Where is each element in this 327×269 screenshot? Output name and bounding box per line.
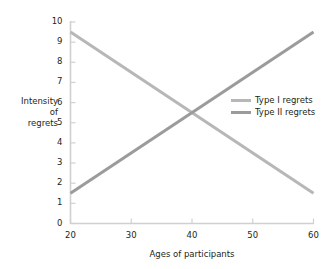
y-tick-label: 7: [45, 76, 63, 86]
x-tick-label: 40: [180, 230, 204, 240]
legend-label: Type II regrets: [255, 107, 315, 118]
legend-swatch-line-icon: [231, 111, 251, 114]
x-tick-label: 60: [302, 230, 326, 240]
y-axis-title: Intensityofregrets: [6, 96, 58, 129]
legend-item: Type I regrets: [231, 95, 326, 106]
y-tick-label: 9: [45, 36, 63, 46]
legend-swatch-line-icon: [231, 99, 251, 102]
x-tick-label: 30: [119, 230, 143, 240]
chart-legend: Type I regretsType II regrets: [231, 95, 326, 119]
y-tick-label: 0: [45, 218, 63, 228]
y-tick-label: 8: [45, 56, 63, 66]
y-axis-title-line: Intensity: [6, 96, 58, 107]
x-axis-title: Ages of participants: [70, 249, 314, 260]
y-tick-label: 3: [45, 157, 63, 167]
y-tick-label: 4: [45, 137, 63, 147]
x-tick-label: 20: [59, 230, 83, 240]
legend-item: Type II regrets: [231, 107, 326, 118]
y-axis-title-line: of: [6, 107, 58, 118]
y-axis-title-line: regrets: [6, 118, 58, 129]
y-tick-label: 1: [45, 197, 63, 207]
y-tick-label: 2: [45, 177, 63, 187]
legend-label: Type I regrets: [255, 95, 313, 106]
chart-container: 012345678910 2030405060 Intensityofregre…: [0, 0, 327, 269]
y-tick-label: 10: [45, 16, 63, 26]
x-tick-label: 50: [241, 230, 265, 240]
